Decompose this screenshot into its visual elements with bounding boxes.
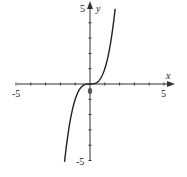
- y-axis-label: y: [95, 3, 101, 14]
- x-min-label: -5: [12, 88, 20, 99]
- x-axis-label: x: [165, 70, 171, 81]
- y-max-label: 5: [80, 3, 85, 14]
- x-max-label: 5: [161, 88, 166, 99]
- origin-marker: [88, 88, 92, 94]
- x-axis-arrow-icon: [167, 81, 175, 87]
- cubic-graph: -5 5 5 -5 x y: [0, 0, 187, 177]
- y-min-label: -5: [76, 156, 84, 167]
